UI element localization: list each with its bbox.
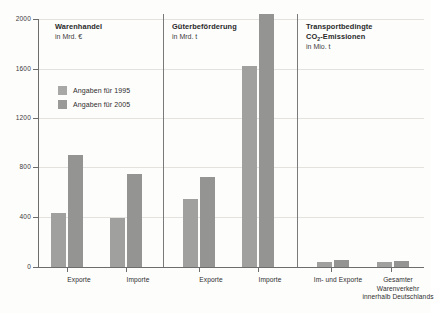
bar-gueter-importe-1995 (242, 66, 257, 267)
x-tick-p2-exporte (199, 267, 200, 272)
bars-layer (38, 0, 424, 267)
x-label-co2-inland: Gesamter Warenverkehr innerhalb Deutschl… (362, 276, 434, 302)
x-label-co2-imexporte: Im- und Exporte (314, 276, 362, 283)
y-axis-label-1200: 1200 (0, 114, 31, 121)
y-axis-label-1600: 1600 (0, 65, 31, 72)
x-tick-p1-importe (126, 267, 127, 272)
bar-co2-imexporte-1995 (317, 262, 332, 267)
bar-co2-inland-2005 (394, 261, 409, 267)
x-label-gueter-exporte: Exporte (199, 276, 222, 283)
bar-gueter-exporte-1995 (183, 199, 198, 267)
y-axis-label-0: 0 (0, 263, 31, 270)
bar-co2-imexporte-2005 (334, 260, 349, 267)
y-axis-label-800: 800 (0, 163, 31, 170)
x-tick-p1-exporte (67, 267, 68, 272)
bar-warenhandel-importe-1995 (110, 218, 125, 267)
bar-gueter-exporte-2005 (200, 177, 215, 267)
bar-warenhandel-exporte-2005 (68, 155, 83, 267)
x-tick-p3-inland (391, 267, 392, 272)
y-axis-label-400: 400 (0, 213, 31, 220)
x-label-warenhandel-importe: Importe (126, 276, 149, 283)
x-tick-p2-importe (258, 267, 259, 272)
x-label-warenhandel-exporte: Exporte (67, 276, 90, 283)
y-axis-label-2000: 2000 (0, 15, 31, 22)
axis-baseline (38, 267, 424, 268)
y-tick-0 (33, 267, 39, 268)
x-label-gueter-importe: Importe (258, 276, 281, 283)
bar-co2-inland-1995 (377, 262, 392, 267)
bar-warenhandel-exporte-1995 (51, 213, 66, 267)
bar-warenhandel-importe-2005 (127, 174, 142, 267)
bar-gueter-importe-2005 (259, 14, 274, 267)
x-tick-p3-imexporte (331, 267, 332, 272)
